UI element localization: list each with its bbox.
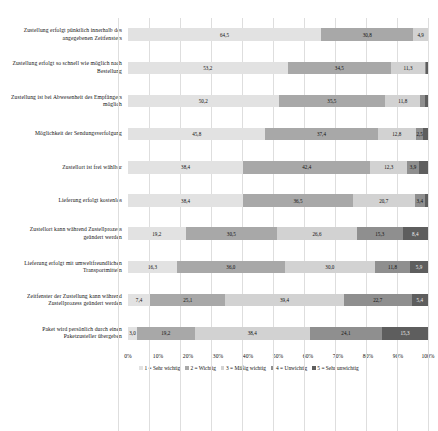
bar-segment-2: 36,5: [243, 194, 353, 207]
bar-segment-3: 11,8: [385, 95, 420, 108]
x-tick-label: 80%: [363, 353, 373, 359]
chart-row: Zustellung erfolgt pünktlich innerhalb d…: [10, 18, 428, 51]
bar-segment-3: 38,4: [195, 327, 310, 340]
bar-cell: 3,019,238,424,115,3: [128, 317, 428, 350]
bar-segment-3: 4,9: [413, 28, 428, 41]
stacked-bar: 53,234,511,3: [128, 62, 428, 75]
bar-segment-3: 12,3: [370, 161, 407, 174]
bar-segment-5: 5,9: [410, 261, 428, 274]
legend-item: 1 = Sehr wichtig: [139, 365, 180, 371]
bar-segment-4: 2,5: [416, 128, 424, 141]
x-tick-label: 100%: [421, 353, 434, 359]
x-tick-label: 30%: [213, 353, 223, 359]
chart-row: Zustellort ist frei wählbar38,442,412,33…: [10, 151, 428, 184]
bar-segment-5: 8,4: [403, 227, 428, 240]
bar-segment-5: [425, 95, 428, 108]
stacked-bar: 7,425,139,422,75,4: [128, 294, 428, 307]
category-label: Lieferung erfolgt mit umweltfreundlichen…: [10, 260, 128, 275]
bar-cell: 53,234,511,3: [128, 51, 428, 84]
bar-segment-4: 15,3: [357, 227, 403, 240]
stacked-bar: 64,530,84,9: [128, 28, 428, 41]
legend-label: 4 = Unwichtig: [276, 365, 307, 371]
stacked-bar-chart: Zustellung erfolgt pünktlich innerhalb d…: [0, 0, 438, 431]
bar-segment-1: 3,0: [128, 327, 137, 340]
chart-row: Zustellung ist bei Abwesenheit des Empfä…: [10, 84, 428, 117]
category-label: Paket wird persönlich durch einen Paketz…: [10, 326, 128, 341]
x-tick-label: 60%: [303, 353, 313, 359]
bar-segment-1: 53,2: [128, 62, 288, 75]
stacked-bar: 45,837,412,82,5: [128, 128, 428, 141]
chart-row: Paket wird persönlich durch einen Paketz…: [10, 317, 428, 350]
legend-item: 2 = Wichtig: [185, 365, 216, 371]
bar-segment-5: [423, 128, 428, 141]
bar-segment-1: 38,4: [128, 194, 243, 207]
chart-plot-area: Zustellung erfolgt pünktlich innerhalb d…: [10, 18, 428, 371]
bar-segment-3: 26,6: [277, 227, 357, 240]
chart-rows: Zustellung erfolgt pünktlich innerhalb d…: [10, 18, 428, 350]
bar-cell: 38,442,412,33,9: [128, 151, 428, 184]
bar-segment-1: 16,3: [128, 261, 177, 274]
legend-swatch-icon: [312, 366, 315, 369]
bar-segment-5: [425, 194, 428, 207]
category-label: Möglichkeit der Sendungsverfolgung: [10, 130, 128, 137]
bar-segment-1: 38,4: [128, 161, 243, 174]
bar-segment-1: 45,8: [128, 128, 265, 141]
x-tick-label: 10%: [153, 353, 163, 359]
bar-cell: 50,235,511,8: [128, 84, 428, 117]
bar-segment-3: 12,8: [378, 128, 416, 141]
gridline: [428, 18, 429, 431]
category-label: Zustellung ist bei Abwesenheit des Empfä…: [10, 94, 128, 109]
bar-segment-4: 22,7: [344, 294, 412, 307]
bar-segment-2: 35,5: [279, 95, 386, 108]
stacked-bar: 16,336,030,011,85,9: [128, 261, 428, 274]
stacked-bar: 38,436,520,73,4: [128, 194, 428, 207]
bar-segment-1: 64,5: [128, 28, 321, 41]
category-label: Lieferung erfolgt kostenlos: [10, 197, 128, 204]
bar-segment-2: 30,5: [186, 227, 278, 240]
bar-segment-4: 3,4: [415, 194, 425, 207]
bar-segment-2: 36,0: [177, 261, 285, 274]
chart-row: Möglichkeit der Sendungsverfolgung45,837…: [10, 118, 428, 151]
bar-cell: 38,436,520,73,4: [128, 184, 428, 217]
chart-row: Lieferung erfolgt kostenlos38,436,520,73…: [10, 184, 428, 217]
x-tick-label: 20%: [183, 353, 193, 359]
bar-segment-3: 30,0: [285, 261, 375, 274]
bar-segment-4: 24,1: [310, 327, 382, 340]
x-tick-label: 50%: [273, 353, 283, 359]
bar-cell: 64,530,84,9: [128, 18, 428, 51]
category-label: Zustellort ist frei wählbar: [10, 164, 128, 171]
chart-row: Zustellort kann während Zustellprozess g…: [10, 217, 428, 250]
legend-swatch-icon: [185, 366, 188, 369]
chart-row: Zustellung erfolgt so schnell wie möglic…: [10, 51, 428, 84]
bar-segment-1: 7,4: [128, 294, 150, 307]
bar-segment-5: [419, 161, 428, 174]
stacked-bar: 19,230,526,615,38,4: [128, 227, 428, 240]
legend-item: 5 = Sehr unwichtig: [312, 365, 358, 371]
bar-segment-1: 50,2: [128, 95, 279, 108]
bar-cell: 16,336,030,011,85,9: [128, 250, 428, 283]
bar-segment-4: 3,9: [407, 161, 419, 174]
bar-cell: 7,425,139,422,75,4: [128, 284, 428, 317]
bar-segment-2: 42,4: [243, 161, 370, 174]
chart-row: Lieferung erfolgt mit umweltfreundlichen…: [10, 250, 428, 283]
legend-label: 1 = Sehr wichtig: [144, 365, 180, 371]
bar-cell: 19,230,526,615,38,4: [128, 217, 428, 250]
stacked-bar: 38,442,412,33,9: [128, 161, 428, 174]
legend-item: 3 = Mäßig wichtig: [221, 365, 266, 371]
bar-segment-3: 39,4: [225, 294, 343, 307]
stacked-bar: 3,019,238,424,115,3: [128, 327, 428, 340]
x-axis-ticks: 0%10%20%30%40%50%60%70%80%90%100%: [128, 351, 428, 363]
bar-segment-5: 15,3: [382, 327, 428, 340]
category-label: Zeitfenster der Zustellung kann während …: [10, 293, 128, 308]
category-label: Zustellung erfolgt pünktlich innerhalb d…: [10, 27, 128, 42]
category-label: Zustellung erfolgt so schnell wie möglic…: [10, 60, 128, 75]
legend-label: 3 = Mäßig wichtig: [226, 365, 266, 371]
bar-segment-1: 19,2: [128, 227, 186, 240]
bar-cell: 45,837,412,82,5: [128, 118, 428, 151]
stacked-bar: 50,235,511,8: [128, 95, 428, 108]
chart-row: Zeitfenster der Zustellung kann während …: [10, 284, 428, 317]
bar-segment-4: 11,8: [375, 261, 410, 274]
x-axis: 0%10%20%30%40%50%60%70%80%90%100%: [10, 351, 428, 363]
legend-item: 4 = Unwichtig: [271, 365, 307, 371]
legend-swatch-icon: [139, 366, 142, 369]
